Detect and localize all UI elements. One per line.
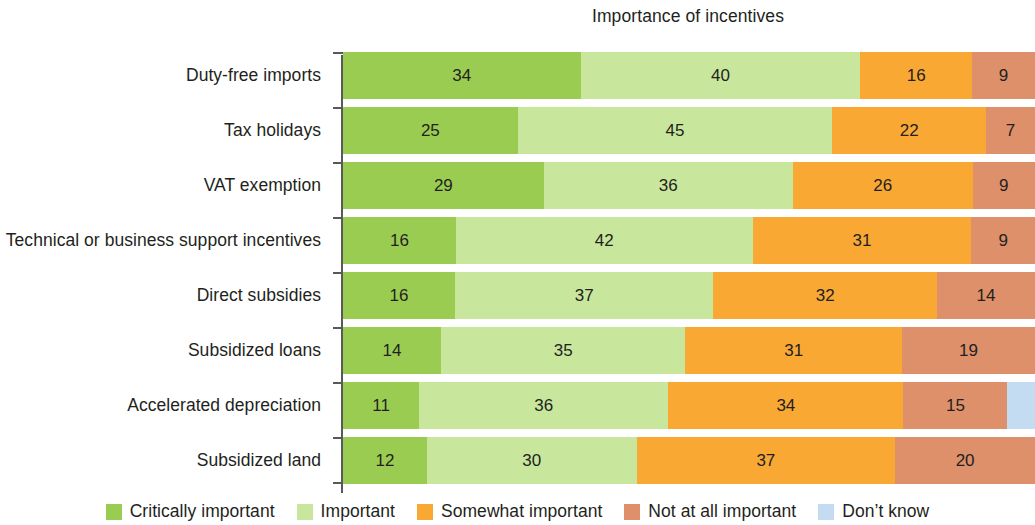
bar-value-label: 15 — [946, 396, 965, 416]
category-label: Technical or business support incentives — [0, 217, 330, 264]
axis-tick — [333, 482, 343, 484]
legend-swatch-icon — [624, 504, 640, 520]
bar-rows: Duty-free imports3440169Tax holidays2545… — [0, 52, 1035, 492]
bar-segment: 9 — [972, 52, 1035, 99]
axis-tick — [333, 327, 343, 329]
bar-value-label: 45 — [666, 121, 685, 141]
stacked-bar: 1642319 — [343, 217, 1035, 264]
bar-segment: 9 — [971, 217, 1035, 264]
stacked-bar: 2936269 — [343, 162, 1035, 209]
axis-tick — [333, 382, 343, 384]
legend-label: Important — [321, 501, 395, 522]
bar-value-label: 26 — [873, 176, 892, 196]
bar-value-label: 40 — [711, 66, 730, 86]
bar-value-label: 9 — [999, 176, 1008, 196]
bar-value-label: 36 — [659, 176, 678, 196]
chart-legend: Critically importantImportantSomewhat im… — [0, 498, 1035, 525]
bar-row: Subsidized loans14353119 — [0, 327, 1035, 374]
bar-value-label: 22 — [900, 121, 919, 141]
legend-label: Not at all important — [648, 501, 796, 522]
bar-value-label: 35 — [554, 341, 573, 361]
chart-title: Importance of incentives — [341, 6, 1035, 27]
stacked-bar: 2545227 — [343, 107, 1035, 154]
bar-segment: 34 — [668, 382, 903, 429]
bar-value-label: 36 — [534, 396, 553, 416]
category-label: VAT exemption — [0, 162, 330, 209]
category-label: Accelerated depreciation — [0, 382, 330, 429]
axis-tick — [333, 217, 343, 219]
axis-tick — [333, 437, 343, 439]
bar-value-label: 31 — [853, 231, 872, 251]
bar-segment: 37 — [637, 437, 896, 484]
bar-value-label: 37 — [756, 451, 775, 471]
bar-value-label: 14 — [382, 341, 401, 361]
bar-segment: 31 — [753, 217, 972, 264]
bar-segment: 7 — [986, 107, 1035, 154]
axis-tick — [333, 162, 343, 164]
bar-segment: 14 — [937, 272, 1035, 319]
category-label: Tax holidays — [0, 107, 330, 154]
legend-swatch-icon — [417, 504, 433, 520]
legend-item[interactable]: Don’t know — [818, 501, 929, 522]
bar-value-label: 12 — [375, 451, 394, 471]
stacked-bar: 3440169 — [343, 52, 1035, 99]
bar-segment: 30 — [427, 437, 637, 484]
bar-segment: 36 — [544, 162, 793, 209]
bar-segment: 45 — [518, 107, 833, 154]
bar-value-label: 14 — [977, 286, 996, 306]
bar-value-label: 19 — [959, 341, 978, 361]
legend-label: Somewhat important — [441, 501, 602, 522]
bar-row: Subsidized land12303720 — [0, 437, 1035, 484]
legend-swatch-icon — [297, 504, 313, 520]
bar-segment: 20 — [895, 437, 1035, 484]
bar-value-label: 9 — [999, 66, 1008, 86]
bar-value-label: 32 — [816, 286, 835, 306]
legend-swatch-icon — [106, 504, 122, 520]
axis-tick — [333, 52, 343, 54]
bar-segment: 16 — [343, 272, 455, 319]
bar-value-label: 30 — [522, 451, 541, 471]
bar-segment: 12 — [343, 437, 427, 484]
bar-segment — [1007, 382, 1035, 429]
bar-value-label: 20 — [956, 451, 975, 471]
plot-area: Duty-free imports3440169Tax holidays2545… — [0, 52, 1035, 492]
legend-label: Critically important — [130, 501, 275, 522]
bar-value-label: 29 — [434, 176, 453, 196]
bar-value-label: 25 — [421, 121, 440, 141]
bar-row: Direct subsidies16373214 — [0, 272, 1035, 319]
bar-segment: 25 — [343, 107, 518, 154]
category-label: Subsidized land — [0, 437, 330, 484]
bar-row: Tax holidays2545227 — [0, 107, 1035, 154]
bar-segment: 36 — [419, 382, 668, 429]
bar-segment: 16 — [860, 52, 972, 99]
stacked-bar: 12303720 — [343, 437, 1035, 484]
bar-value-label: 37 — [575, 286, 594, 306]
bar-segment: 19 — [902, 327, 1035, 374]
legend-item[interactable]: Not at all important — [624, 501, 796, 522]
bar-segment: 37 — [455, 272, 714, 319]
category-label: Duty-free imports — [0, 52, 330, 99]
legend-swatch-icon — [818, 504, 834, 520]
bar-value-label: 9 — [998, 231, 1007, 251]
bar-segment: 29 — [343, 162, 544, 209]
bar-segment: 14 — [343, 327, 441, 374]
bar-row: Technical or business support incentives… — [0, 217, 1035, 264]
bar-value-label: 7 — [1006, 121, 1015, 141]
legend-item[interactable]: Critically important — [106, 501, 275, 522]
legend-item[interactable]: Somewhat important — [417, 501, 602, 522]
bar-segment: 26 — [793, 162, 973, 209]
bar-segment: 11 — [343, 382, 419, 429]
bar-value-label: 42 — [595, 231, 614, 251]
legend-item[interactable]: Important — [297, 501, 395, 522]
axis-tick — [333, 107, 343, 109]
stacked-bar: 14353119 — [343, 327, 1035, 374]
bar-row: VAT exemption2936269 — [0, 162, 1035, 209]
bar-segment: 9 — [973, 162, 1035, 209]
bar-segment: 15 — [903, 382, 1007, 429]
stacked-bar: 16373214 — [343, 272, 1035, 319]
stacked-bar-chart: Importance of incentives Duty-free impor… — [0, 0, 1035, 525]
category-label: Direct subsidies — [0, 272, 330, 319]
bar-value-label: 11 — [372, 396, 390, 416]
bar-segment: 31 — [685, 327, 902, 374]
bar-segment: 34 — [343, 52, 581, 99]
